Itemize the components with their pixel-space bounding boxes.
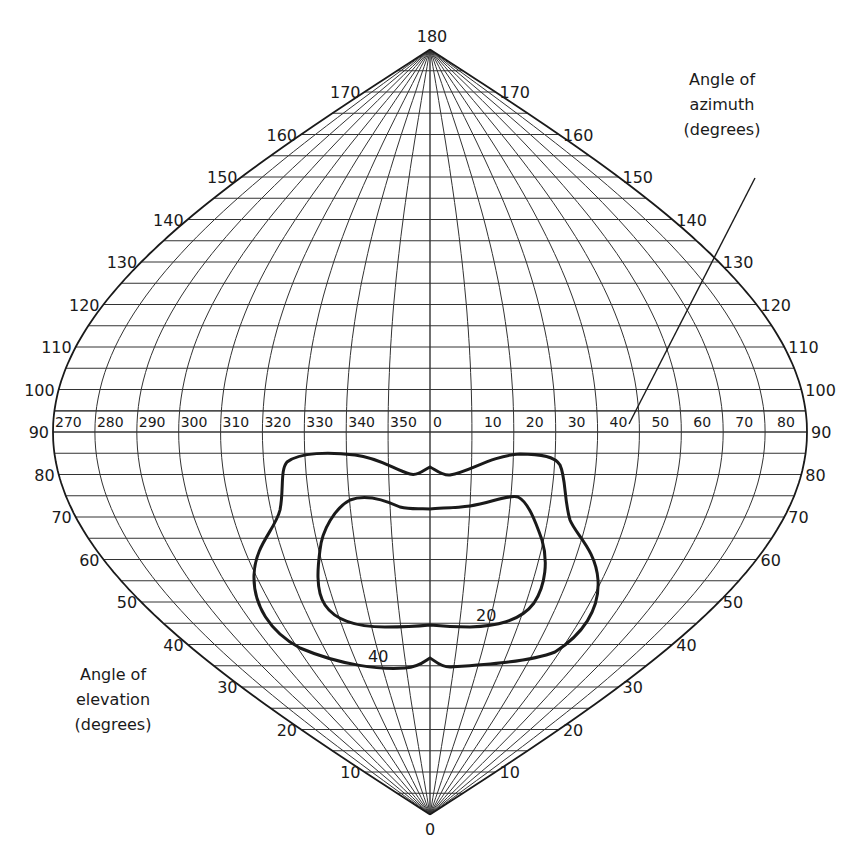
- azimuth-label: 330: [306, 414, 333, 430]
- azimuth-label: 280: [97, 414, 124, 430]
- elevation-label-left: 60: [79, 551, 99, 570]
- elevation-label-right: 110: [788, 338, 819, 357]
- elevation-label-left: 70: [51, 508, 71, 527]
- azimuth-label: 10: [484, 414, 502, 430]
- elevation-label-right: 100: [805, 381, 836, 400]
- elevation-label-left: 140: [153, 211, 184, 230]
- elevation-label: 0: [425, 820, 435, 839]
- elevation-label-right: 120: [760, 296, 791, 315]
- elevation-caption: Angle of elevation (degrees): [75, 665, 152, 734]
- azimuth-label: 40: [610, 414, 628, 430]
- elevation-label-right: 80: [805, 466, 825, 485]
- contour-label-40: 40: [368, 647, 388, 666]
- elevation-azimuth-diagram: 0101020203030404050506060707080809090100…: [0, 0, 849, 854]
- elevation-label-right: 170: [499, 83, 530, 102]
- azimuth-label: 0: [433, 414, 442, 430]
- azimuth-caption-line-2: azimuth: [690, 95, 755, 114]
- azimuth-caption-line-1: Angle of: [689, 70, 755, 89]
- elevation-label-right: 140: [676, 211, 707, 230]
- elevation-label-left: 130: [107, 253, 138, 272]
- contour-20: [318, 496, 545, 627]
- azimuth-label: 70: [735, 414, 753, 430]
- elevation-label: 180: [417, 27, 448, 46]
- elevation-label-right: 60: [760, 551, 780, 570]
- elevation-label-right: 10: [499, 763, 519, 782]
- elevation-label-left: 150: [207, 168, 238, 187]
- elevation-label-left: 100: [24, 381, 55, 400]
- azimuth-label: 290: [139, 414, 166, 430]
- azimuth-label: 20: [526, 414, 544, 430]
- elevation-label-right: 160: [563, 126, 594, 145]
- azimuth-label: 50: [651, 414, 669, 430]
- elevation-label-right: 90: [811, 423, 831, 442]
- azimuth-label: 310: [223, 414, 250, 430]
- elevation-label-right: 40: [676, 636, 696, 655]
- elevation-label-left: 80: [34, 466, 54, 485]
- elevation-label-right: 30: [623, 678, 643, 697]
- elevation-label-right: 150: [623, 168, 654, 187]
- elevation-label-left: 20: [277, 721, 297, 740]
- elevation-caption-line-2: elevation: [76, 690, 150, 709]
- azimuth-label: 270: [55, 414, 82, 430]
- azimuth-caption: Angle of azimuth (degrees): [684, 70, 761, 139]
- elevation-label-right: 20: [563, 721, 583, 740]
- azimuth-label: 60: [693, 414, 711, 430]
- azimuth-label: 30: [568, 414, 586, 430]
- elevation-label-left: 10: [340, 763, 360, 782]
- elevation-label-right: 130: [723, 253, 754, 272]
- azimuth-label: 300: [181, 414, 208, 430]
- azimuth-label: 320: [264, 414, 291, 430]
- elevation-label-right: 50: [723, 593, 743, 612]
- elevation-label-left: 110: [41, 338, 72, 357]
- elevation-label-left: 170: [330, 83, 361, 102]
- elevation-label-left: 120: [69, 296, 100, 315]
- elevation-caption-line-3: (degrees): [75, 715, 152, 734]
- contour-label-20: 20: [476, 606, 496, 625]
- elevation-label-right: 70: [788, 508, 808, 527]
- azimuth-labels: 2702802903003103203303403500102030405060…: [55, 414, 795, 430]
- azimuth-label: 340: [348, 414, 375, 430]
- contour-curves: [254, 453, 598, 668]
- elevation-caption-line-1: Angle of: [80, 665, 146, 684]
- elevation-label-left: 90: [29, 423, 49, 442]
- elevation-label-left: 50: [117, 593, 137, 612]
- azimuth-label: 350: [390, 414, 417, 430]
- azimuth-caption-line-3: (degrees): [684, 120, 761, 139]
- elevation-label-left: 30: [217, 678, 237, 697]
- elevation-label-left: 40: [163, 636, 183, 655]
- azimuth-label: 80: [777, 414, 795, 430]
- elevation-label-left: 160: [267, 126, 298, 145]
